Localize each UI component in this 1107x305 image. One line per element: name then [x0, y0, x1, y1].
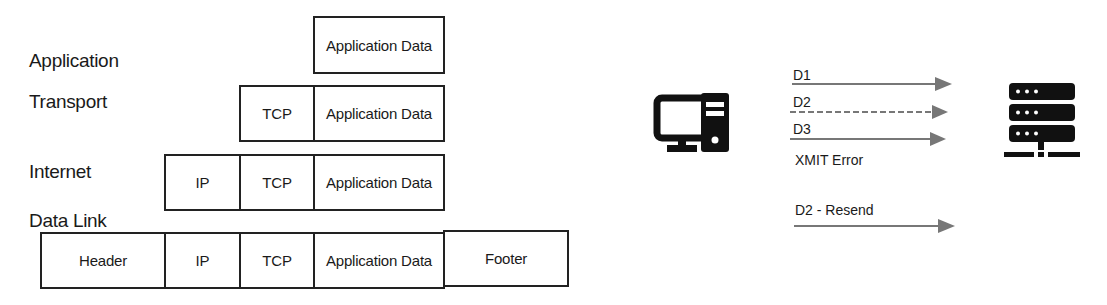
application-data-segment: Application Data: [313, 16, 445, 74]
server-network-icon: [1004, 80, 1080, 162]
application-data-segment: Application Data: [313, 232, 445, 289]
footer-segment: Footer: [443, 230, 569, 287]
arrow-d2-dashed: [790, 105, 948, 119]
computer-tower-icon: [701, 93, 731, 159]
arrow-d1: [792, 77, 952, 91]
header-segment: Header: [40, 232, 166, 289]
ip-segment: IP: [164, 154, 241, 211]
arrow-d3: [790, 132, 946, 146]
application-data-segment: Application Data: [313, 154, 445, 211]
arrows-layer: [780, 70, 980, 240]
application-data-segment: Application Data: [313, 85, 445, 142]
layer-label-transport: Transport: [29, 91, 107, 113]
layer-label-application: Application: [29, 50, 119, 72]
ip-segment: IP: [164, 232, 241, 289]
layer-label-internet: Internet: [29, 161, 91, 183]
arrow-d2-resend: [794, 219, 955, 233]
tcp-segment: TCP: [239, 85, 315, 142]
tcp-segment: TCP: [239, 232, 315, 289]
tcp-segment: TCP: [239, 154, 315, 211]
layer-label-data-link: Data Link: [29, 210, 107, 232]
